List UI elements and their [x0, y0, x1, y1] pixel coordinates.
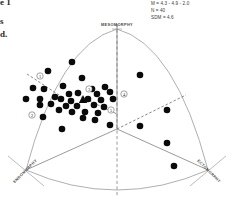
- sector-tag: 3: [86, 86, 92, 92]
- page-text-fragment-1: e 1: [0, 0, 11, 7]
- data-point: [101, 104, 108, 111]
- data-point: [63, 103, 70, 110]
- somatochart-canvas: MESOMORPHY ENDOMORPHY ECTOMORPHY 12345: [0, 0, 232, 208]
- data-point: [23, 96, 30, 103]
- data-point: [30, 85, 37, 92]
- sector-tag: 2: [29, 112, 35, 118]
- data-point: [59, 126, 66, 133]
- data-point: [91, 102, 98, 109]
- data-point: [102, 84, 109, 91]
- data-points-layer: [23, 59, 178, 170]
- data-point: [66, 91, 73, 98]
- data-point: [60, 83, 67, 90]
- data-point: [58, 96, 65, 103]
- data-point: [75, 90, 82, 97]
- axis-label-ectomorphy: ECTOMORPHY: [196, 158, 222, 184]
- data-point: [56, 107, 63, 114]
- page-text-fragment-3: d.: [0, 30, 7, 39]
- data-point: [37, 96, 44, 103]
- data-point: [107, 122, 114, 129]
- divider-to-ectomorphy: [117, 129, 208, 170]
- data-point: [164, 107, 171, 114]
- data-point: [95, 110, 102, 117]
- data-point: [52, 94, 59, 101]
- divider-to-endomorphy: [26, 129, 117, 170]
- data-point: [110, 96, 117, 103]
- data-point: [45, 68, 52, 75]
- sector-tag-label: 1: [39, 74, 41, 79]
- data-point: [98, 97, 105, 104]
- data-point: [79, 75, 86, 82]
- data-point: [137, 72, 144, 79]
- outline-right-edge: [117, 29, 208, 170]
- data-point: [69, 59, 76, 66]
- data-point: [80, 115, 87, 122]
- data-point: [40, 114, 47, 121]
- subdivision-right: [117, 95, 186, 129]
- data-point: [171, 163, 178, 170]
- somatochart-figure: MESOMORPHY ENDOMORPHY ECTOMORPHY 12345 M…: [0, 0, 232, 208]
- data-point: [82, 109, 89, 116]
- sector-tag: 1: [37, 73, 43, 79]
- axis-label-mesomorphy: MESOMORPHY: [101, 22, 133, 27]
- stat-line-count: N = 40: [151, 7, 189, 14]
- statistics-block: M = 4.3 - 4.9 - 2.0 N = 40 SDM = 4.6: [151, 0, 189, 21]
- data-point: [48, 101, 55, 108]
- data-point: [41, 86, 48, 93]
- data-point: [37, 102, 44, 109]
- sector-tag: 5: [108, 107, 114, 113]
- data-point: [107, 89, 114, 96]
- data-point: [69, 109, 76, 116]
- data-point: [164, 140, 171, 147]
- data-point: [137, 123, 144, 130]
- sector-tag-label: 2: [31, 113, 33, 118]
- data-point: [74, 103, 81, 110]
- axis-label-endomorphy: ENDOMORPHY: [12, 158, 38, 184]
- data-point: [68, 98, 75, 105]
- data-point: [92, 117, 99, 124]
- stat-line-mean: M = 4.3 - 4.9 - 2.0: [151, 0, 189, 7]
- data-point: [94, 91, 101, 98]
- stat-line-sdm: SDM = 4.6: [151, 14, 189, 21]
- sector-tag: 4: [121, 91, 127, 97]
- page-text-fragment-2: s: [0, 17, 4, 26]
